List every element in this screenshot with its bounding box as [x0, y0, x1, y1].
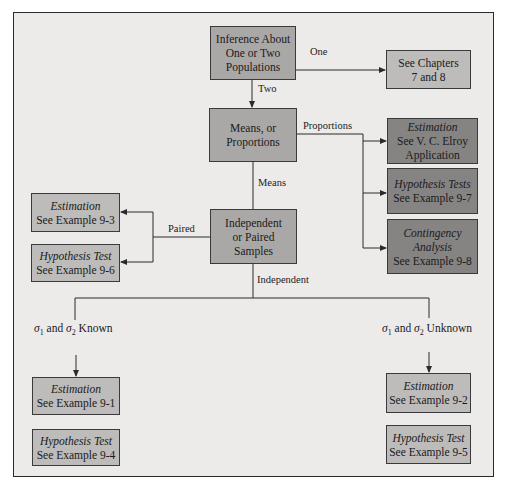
label-text: Unknown — [424, 322, 472, 334]
node-line: See Example 9-4 — [37, 448, 116, 462]
node-line: See Example 9-7 — [393, 191, 472, 205]
node-paired-hypothesis-test: Hypothesis Test See Example 9-6 — [31, 244, 120, 282]
edge-label-one: One — [310, 46, 328, 57]
node-line: See Example 9-8 — [393, 254, 472, 268]
node-line: Application — [405, 148, 459, 162]
node-paired-estimation: Estimation See Example 9-3 — [31, 193, 120, 232]
edge-label-means: Means — [258, 177, 286, 188]
node-line: Means, or — [230, 121, 276, 135]
node-contingency-analysis: Contingency Analysis See Example 9-8 — [387, 219, 478, 274]
node-title: Contingency — [403, 226, 461, 240]
node-title: Hypothesis Tests — [394, 177, 471, 191]
node-line: See V. C. Elroy — [397, 134, 468, 148]
node-title: Estimation — [51, 199, 101, 213]
edge-label-independent: Independent — [257, 274, 309, 285]
node-title: Estimation — [404, 379, 454, 393]
node-line: Independent — [225, 216, 282, 230]
edge-label-proportions: Proportions — [303, 120, 352, 131]
node-title: Estimation — [408, 120, 458, 134]
node-line: Samples — [234, 244, 273, 258]
label-text: Known — [76, 322, 113, 334]
node-title: Hypothesis Test — [392, 431, 464, 445]
node-line: See Example 9-2 — [389, 393, 468, 407]
node-title: Hypothesis Test — [40, 434, 112, 448]
node-independent-or-paired: Independent or Paired Samples — [210, 209, 297, 264]
node-line: See Example 9-5 — [389, 445, 468, 459]
node-line: Inference About — [216, 32, 290, 46]
node-line: One or Two — [226, 46, 281, 60]
node-see-chapters: See Chapters 7 and 8 — [386, 50, 471, 89]
edge-label-sigmas-unknown: σ1 and σ2 Unknown — [382, 322, 472, 337]
node-known-hypothesis-test: Hypothesis Test See Example 9-4 — [32, 429, 120, 466]
node-known-estimation: Estimation See Example 9-1 — [32, 377, 120, 415]
node-line: 7 and 8 — [412, 70, 446, 84]
node-proportion-estimation: Estimation See V. C. Elroy Application — [387, 118, 478, 164]
node-means-or-proportions: Means, or Proportions — [209, 108, 297, 162]
node-title: Estimation — [51, 382, 101, 396]
node-line: or Paired — [233, 230, 275, 244]
node-line: See Example 9-3 — [36, 213, 115, 227]
node-line: Populations — [226, 60, 280, 74]
label-text: and — [392, 322, 414, 334]
node-proportion-hypothesis-tests: Hypothesis Tests See Example 9-7 — [387, 168, 478, 214]
node-unknown-hypothesis-test: Hypothesis Test See Example 9-5 — [386, 425, 471, 464]
node-line: See Chapters — [398, 56, 458, 70]
node-line: Proportions — [226, 135, 280, 149]
edge-label-sigmas-known: σ1 and σ2 Known — [34, 322, 112, 337]
node-inference-about-populations: Inference About One or Two Populations — [210, 26, 296, 80]
label-text: and — [44, 322, 66, 334]
node-line: See Example 9-6 — [36, 263, 115, 277]
edge-label-two: Two — [258, 83, 277, 94]
node-title: Hypothesis Test — [39, 249, 111, 263]
node-title: Analysis — [413, 240, 452, 254]
edge-label-paired: Paired — [168, 223, 195, 234]
node-line: See Example 9-1 — [37, 396, 116, 410]
node-unknown-estimation: Estimation See Example 9-2 — [386, 373, 471, 413]
